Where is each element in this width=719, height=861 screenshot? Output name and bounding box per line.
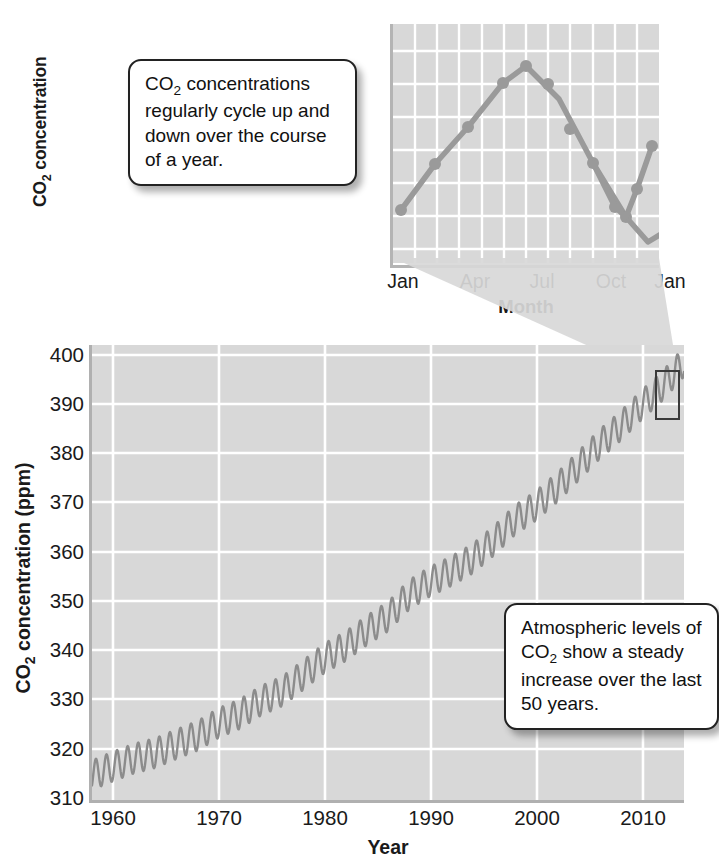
main-x-tick-labels: 1960 1970 1980 1990 2000 2010 [92, 806, 684, 834]
inset-xtick-oct: Oct [596, 270, 626, 293]
main-xtick-2010: 2010 [620, 806, 666, 830]
inset-monthly-cycle-plot [393, 24, 659, 263]
main-x-axis-line [89, 800, 684, 803]
main-ytick-330: 330 [50, 687, 84, 711]
inset-gridlines [393, 24, 659, 263]
main-x-axis-label: Year [92, 836, 684, 859]
inset-x-axis-line [390, 265, 659, 268]
main-ytick-390: 390 [50, 392, 84, 416]
main-ytick-380: 380 [50, 441, 84, 465]
inset-x-tick-labels: Jan Apr Jul Oct Jan [370, 270, 680, 296]
main-xtick-1960: 1960 [90, 806, 136, 830]
inset-y-axis-label: CO2 concentration [30, 32, 54, 232]
main-ytick-370: 370 [50, 490, 84, 514]
main-ytick-310: 310 [50, 786, 84, 810]
main-keeling-curve-plot [92, 345, 684, 800]
inset-plot-svg [393, 24, 659, 263]
inset-xtick-apr: Apr [460, 270, 490, 293]
main-ytick-340: 340 [50, 638, 84, 662]
main-xtick-2000: 2000 [514, 806, 560, 830]
inset-x-axis-label: Month [393, 296, 659, 318]
callout-trend-text: Atmospheric levels of CO2 show a steady … [521, 616, 703, 716]
callout-rising-trend: Atmospheric levels of CO2 show a steady … [504, 603, 719, 730]
inset-marker-final [646, 140, 658, 152]
main-ytick-360: 360 [50, 540, 84, 564]
main-plot-svg [92, 345, 684, 800]
zoomed-year-highlight-box [655, 370, 680, 420]
main-y-axis-label: CO2 concentration (ppm) [12, 418, 38, 738]
callout-seasonal-text: CO2 concentrations regularly cycle up an… [145, 72, 341, 172]
inset-xtick-jul: Jul [530, 270, 555, 293]
main-xtick-1990: 1990 [408, 806, 454, 830]
main-ytick-350: 350 [50, 589, 84, 613]
callout-seasonal-cycle: CO2 concentrations regularly cycle up an… [128, 59, 357, 186]
main-xtick-1980: 1980 [302, 806, 348, 830]
main-ytick-400: 400 [50, 343, 84, 367]
main-xtick-1970: 1970 [196, 806, 242, 830]
inset-xtick-jan1: Jan [387, 270, 418, 293]
inset-xtick-jan2: Jan [654, 270, 685, 293]
main-ytick-320: 320 [50, 737, 84, 761]
